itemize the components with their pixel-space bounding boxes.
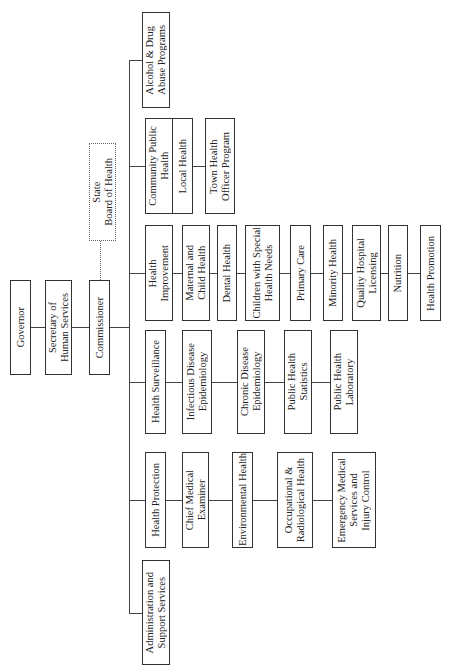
state-board-label: State Board of Health [91,158,115,226]
connector [212,382,237,383]
unit-box: Emergency Medical Services and Injury Co… [332,452,376,548]
connector [110,327,129,328]
unit-box: Dental Health [217,225,237,321]
secretary-box: Secretary of Human Services [45,280,72,375]
connector [129,382,145,383]
division-box: Health Improvement [145,225,173,321]
unit-box: Health Promotion [420,225,441,321]
connector [129,166,145,167]
division-box: Administration and Support Services [142,560,170,665]
governor-box: Governor [10,280,31,375]
connector [265,382,284,383]
connector [72,327,89,328]
connector [129,60,142,61]
unit-label: Maternal and Child Health [184,245,208,301]
state-board-box: State Board of Health [89,143,116,241]
unit-box: Infectious Disease Epidemiology [182,330,212,434]
connector [210,273,217,274]
connector [129,273,145,274]
unit-box: Minority Health [323,225,343,321]
connector [312,382,330,383]
unit-label: Infectious Disease Epidemiology [185,343,209,420]
unit-box: Public Health Laboratory [330,330,358,434]
unit-box: Chronic Disease Epidemiology [237,330,265,434]
unit-label: Public Health Statistics [286,353,310,410]
division-spine [129,61,130,613]
unit-label: Health Promotion [425,236,437,311]
unit-label: Primary Care [295,245,307,301]
unit-box: Occupational & Radiological Health [277,452,313,548]
connector [129,613,142,614]
connector [209,500,232,501]
division-box: Health Protection [145,452,166,548]
connector [381,273,388,274]
unit-box: Environmental Health [232,452,253,548]
division-label: Health Protection [150,463,162,537]
connector [193,166,205,167]
unit-label: Minority Health [327,239,339,307]
division-label: Health Improvement [147,245,171,302]
connector [129,500,145,501]
commissioner-label: Commissioner [94,297,106,358]
secretary-label: Secretary of Human Services [47,293,71,362]
division-box: Health Surveillance [145,330,166,434]
unit-label: Emergency Medical Services and Injury Co… [336,458,372,543]
unit-box: Local Health [172,118,193,214]
unit-box: Quality Hospital Licensing [352,225,381,321]
connector [237,273,245,274]
connector [31,327,45,328]
connector [313,500,332,501]
connector [311,273,323,274]
unit-box: Primary Care [290,225,311,321]
connector [343,273,352,274]
org-chart: Governor Secretary of Human Services Com… [0,0,449,672]
unit-label: Town Health Officer Program [208,132,232,201]
connector [408,273,420,274]
unit-box: Chief Medical Examiner [182,452,209,548]
unit-box: Maternal and Child Health [182,225,210,321]
unit-label: Nutrition [392,254,404,293]
unit-box: Nutrition [388,225,408,321]
connector [253,500,277,501]
unit-box: Town Health Officer Program [205,118,235,214]
unit-label: Quality Hospital Licensing [355,238,379,308]
division-label: Alcohol & Drug Abuse Programs [144,25,168,95]
dotted-connector [100,241,101,280]
unit-label: Dental Health [221,244,233,303]
connector [280,273,290,274]
unit-label: Occupational & Radiological Health [283,458,307,542]
unit-box: Children with Special Health Needs [245,225,280,321]
unit-label: Local Health [177,139,189,194]
connector [173,273,182,274]
unit-label: Children with Special Health Needs [251,227,275,319]
unit-label: Chief Medical Examiner [184,470,208,530]
division-box: Alcohol & Drug Abuse Programs [142,12,170,108]
governor-label: Governor [15,307,27,347]
unit-box: Public Health Statistics [284,330,312,434]
unit-label: Chronic Disease Epidemiology [239,347,263,416]
division-label: Administration and Support Services [144,572,168,653]
connector [166,500,182,501]
division-label: Health Surveillance [150,340,162,423]
unit-label: Environmental Health [237,453,249,546]
division-box: Community Public Health [145,118,173,214]
division-label: Community Public Health [147,126,171,206]
unit-label: Public Health Laboratory [332,353,356,410]
commissioner-box: Commissioner [89,280,110,375]
connector [166,382,182,383]
